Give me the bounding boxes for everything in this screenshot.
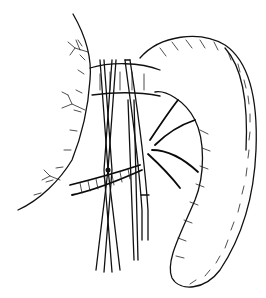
scissors-instrument (96, 60, 120, 272)
surgical-illustration (0, 0, 266, 298)
clamp-instrument (125, 60, 149, 260)
left-tissue-mass (18, 14, 90, 210)
